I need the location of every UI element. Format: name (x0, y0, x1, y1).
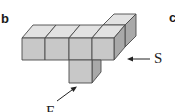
callout-f-label: F (46, 104, 54, 112)
lower-cube (69, 60, 101, 83)
callout-s-label: S (154, 51, 162, 66)
cube-arrangement-diagram (0, 0, 175, 112)
cube-row-fronts (22, 38, 114, 60)
cube-row-tops (22, 25, 125, 38)
arrow-s (127, 57, 150, 62)
arrow-f (57, 87, 77, 102)
